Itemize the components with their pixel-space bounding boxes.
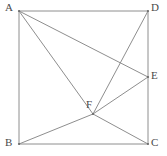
vertex-dot-b xyxy=(18,143,20,145)
point-label-a: A xyxy=(5,2,13,13)
geometry-figure: ABCDEF xyxy=(0,0,167,156)
point-label-d: D xyxy=(151,2,159,13)
segment-DF xyxy=(93,11,148,114)
point-label-c: C xyxy=(151,137,158,148)
segment-AF xyxy=(19,11,93,114)
segment-FC xyxy=(93,114,148,144)
vertex-dots-group xyxy=(18,10,149,145)
segment-BF xyxy=(19,114,93,144)
segments-group xyxy=(19,11,148,144)
figure-canvas xyxy=(0,0,167,156)
vertex-dot-a xyxy=(18,10,20,12)
segment-EF xyxy=(93,77,148,114)
vertex-dot-d xyxy=(147,10,149,12)
vertex-dot-e xyxy=(147,76,149,78)
point-label-f: F xyxy=(86,99,92,110)
point-label-b: B xyxy=(5,137,12,148)
vertex-dot-f xyxy=(92,113,94,115)
point-label-e: E xyxy=(151,70,158,81)
vertex-dot-c xyxy=(147,143,149,145)
segment-AE xyxy=(19,11,148,77)
